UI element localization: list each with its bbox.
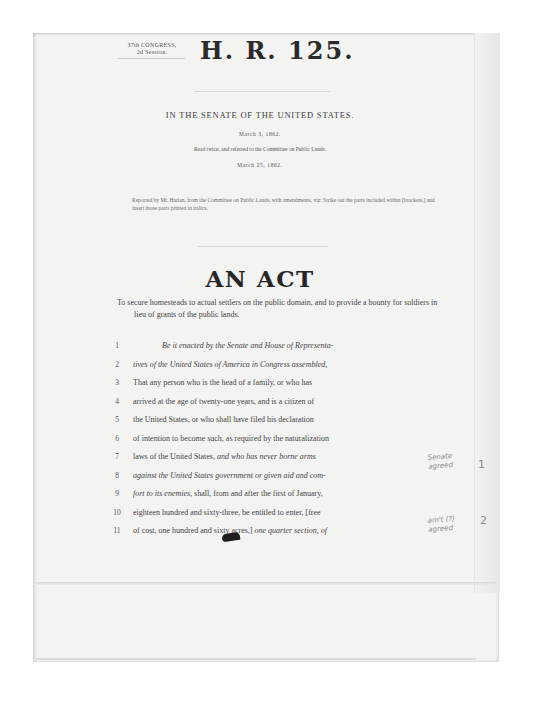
handwritten-number: 2 bbox=[480, 514, 487, 527]
line-text: arrived at the age of twenty-one years, … bbox=[133, 397, 314, 406]
session-block: 37th CONGRESS, 2d Session. bbox=[117, 42, 187, 59]
bill-line: 7 laws of the United States, and who has… bbox=[110, 452, 430, 471]
line-number: 8 bbox=[110, 471, 124, 480]
page-edge-shadow bbox=[474, 33, 500, 593]
line-number: 11 bbox=[110, 526, 124, 535]
chamber-heading: IN THE SENATE OF THE UNITED STATES. bbox=[100, 110, 420, 120]
act-title: AN ACT bbox=[100, 265, 420, 292]
line-text: of intention to become such, as required… bbox=[133, 434, 329, 443]
line-text: laws of the United States, bbox=[133, 452, 217, 461]
line-text: the United States, or who shall have fil… bbox=[133, 415, 314, 424]
act-purpose: To secure homesteads to actual settlers … bbox=[117, 297, 439, 321]
page-bottom-edge bbox=[36, 658, 476, 660]
reported-note: Reported by Mr. Harlan, from the Committ… bbox=[118, 197, 437, 212]
section-divider bbox=[198, 246, 328, 247]
line-text: shall, from and after the first of Janua… bbox=[194, 489, 323, 498]
bill-text: 1 Be it enacted by the Senate and House … bbox=[110, 341, 430, 545]
bill-header: 37th CONGRESS, 2d Session. H. R. 125. bbox=[117, 38, 437, 68]
line-number: 2 bbox=[110, 360, 124, 369]
handwritten-note: Senate agreed bbox=[427, 450, 478, 471]
bill-line: 5 the United States, or who shall have f… bbox=[110, 415, 430, 434]
header-divider bbox=[195, 91, 330, 92]
line-text: tives of the United States of America in… bbox=[133, 360, 327, 369]
line-text: That any person who is the head of a fam… bbox=[133, 378, 312, 387]
bill-line: 8 against the United States government o… bbox=[110, 471, 430, 490]
line-text: eighteen hundred and sixty-three, be ent… bbox=[133, 508, 321, 517]
line-number: 3 bbox=[110, 378, 124, 387]
bill-line: 10 eighteen hundred and sixty-three, be … bbox=[110, 508, 430, 527]
session-label: 2d Session. bbox=[117, 49, 187, 56]
line-number: 1 bbox=[110, 341, 124, 350]
line-text-amendment: one quarter section, of bbox=[255, 526, 327, 535]
referral-note: Read twice, and referred to the Committe… bbox=[100, 146, 420, 152]
bill-line: 9 fort to its enemies, shall, from and a… bbox=[110, 489, 430, 508]
bill-line: 6 of intention to become such, as requir… bbox=[110, 434, 430, 453]
line-number: 6 bbox=[110, 434, 124, 443]
handwritten-number: 1 bbox=[478, 458, 485, 471]
bill-line: 2 tives of the United States of America … bbox=[110, 360, 430, 379]
reported-date: March 25, 1862. bbox=[100, 162, 420, 168]
bill-number: H. R. 125. bbox=[200, 36, 355, 65]
bill-line: 11 of cost, one hundred and sixty acres,… bbox=[110, 526, 430, 545]
line-number: 10 bbox=[110, 508, 124, 517]
handwritten-note: am't (?) agreed bbox=[427, 513, 478, 534]
line-number: 4 bbox=[110, 397, 124, 406]
session-underline bbox=[117, 58, 185, 59]
line-number: 7 bbox=[110, 452, 124, 461]
fold-line bbox=[33, 582, 497, 585]
bill-line: 3 That any person who is the head of a f… bbox=[110, 378, 430, 397]
bill-line: 1 Be it enacted by the Senate and House … bbox=[110, 341, 430, 360]
received-date: March 3, 1862. bbox=[100, 131, 420, 137]
line-text-amendment: fort to its enemies, bbox=[133, 489, 194, 498]
line-text: Be it enacted by the Senate and House of… bbox=[162, 341, 333, 350]
bill-line: 4 arrived at the age of twenty-one years… bbox=[110, 397, 430, 416]
line-text-amendment: against the United States government or … bbox=[133, 471, 326, 480]
congress-label: 37th CONGRESS, bbox=[117, 42, 187, 49]
line-number: 9 bbox=[110, 489, 124, 498]
line-text-amendment: and who has never borne arms bbox=[217, 452, 316, 461]
line-number: 5 bbox=[110, 415, 124, 424]
